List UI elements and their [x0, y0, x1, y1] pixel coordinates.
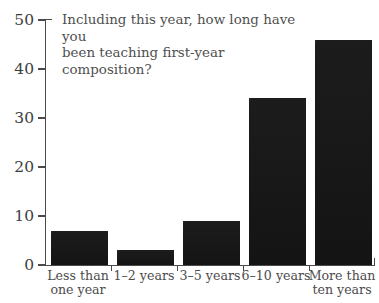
x-axis-tick-label: Less than one year [42, 269, 114, 297]
bar [315, 40, 372, 265]
y-axis-tick-label: 50 [0, 11, 34, 29]
y-axis-top-cap [45, 19, 52, 20]
y-axis-tick-label: 40 [0, 60, 34, 78]
y-axis-tick [38, 68, 45, 69]
y-axis-tick-label: 30 [0, 109, 34, 127]
x-axis-tick-label: More than ten years [306, 269, 378, 297]
y-axis-tick [38, 264, 45, 265]
chart-title: Including this year, how long have you b… [62, 12, 312, 78]
x-axis-tick-label: 1–2 years [108, 269, 180, 283]
x-axis-tick-label: 6–10 years [240, 269, 312, 283]
y-axis-tick-label: 10 [0, 207, 34, 225]
y-axis-tick-label: 20 [0, 158, 34, 176]
bar [249, 98, 306, 265]
y-axis-tick [38, 19, 45, 20]
y-axis-tick [38, 117, 45, 118]
y-axis-line [45, 19, 46, 266]
bar [51, 231, 108, 265]
y-axis-tick [38, 166, 45, 167]
bar [117, 250, 174, 265]
x-axis-tick-label: 3–5 years [174, 269, 246, 283]
bar-chart: Including this year, how long have you b… [0, 0, 379, 303]
y-axis-tick [38, 215, 45, 216]
y-axis-tick-label: 0 [0, 256, 34, 274]
x-axis-right-cap [374, 258, 375, 266]
bar [183, 221, 240, 265]
